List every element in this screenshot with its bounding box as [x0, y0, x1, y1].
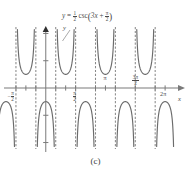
y-axis-label: y — [63, 25, 66, 32]
x-axis-label: x — [178, 96, 181, 103]
equation-y: y — [62, 12, 65, 20]
callout-leader-line — [63, 30, 71, 41]
equation-function-name: csc — [78, 12, 87, 20]
equation-equals: = — [67, 12, 71, 20]
x-tick-label: 3π2 — [132, 75, 138, 87]
cosecant-plot — [0, 0, 191, 178]
figure-caption: (c) — [0, 156, 191, 166]
x-tick-label: −π2 — [7, 91, 14, 103]
equation-close-paren: ) — [109, 12, 112, 22]
x-tick-label: 2π — [160, 91, 166, 97]
axes-group — [4, 26, 185, 152]
equation-plus: + — [99, 12, 103, 20]
equation-coef-denominator: 2 — [73, 17, 77, 22]
x-tick-fraction: 3π2 — [132, 75, 138, 87]
equation-coefficient: 1 2 — [73, 11, 77, 23]
equation-arg-first: 3x — [91, 12, 98, 20]
x-tick-fraction: π2 — [73, 91, 77, 103]
x-tick-label: π2 — [73, 91, 77, 103]
x-tick-denominator: 2 — [11, 97, 15, 102]
x-tick-label: π — [103, 75, 106, 81]
figure-graph-cosecant: y = 1 2 csc(3x + π 2 ) −π2π2π3π22π x y (… — [0, 0, 191, 178]
x-tick-denominator: 2 — [73, 97, 77, 102]
equation-annotation: y = 1 2 csc(3x + π 2 ) — [62, 11, 112, 23]
x-tick-fraction: π2 — [11, 91, 15, 103]
x-tick-denominator: 2 — [132, 81, 138, 86]
